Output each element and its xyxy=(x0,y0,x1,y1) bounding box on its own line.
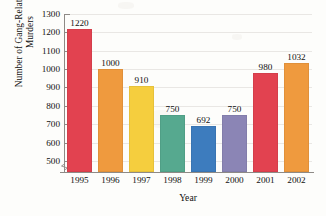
x-axis-tick-label-1999: 1999 xyxy=(187,175,221,185)
bar-value-label: 692 xyxy=(197,115,211,125)
bar-value-label: 980 xyxy=(259,62,273,72)
x-axis-tick-label-1998: 1998 xyxy=(156,175,190,185)
y-axis-tick-label: 1000 xyxy=(28,64,60,74)
y-axis-tick-label: 500 xyxy=(28,156,60,166)
bar-value-label: 1032 xyxy=(287,52,305,62)
x-axis-tick-label-1996: 1996 xyxy=(94,175,128,185)
y-axis-tick-label: 1100 xyxy=(28,46,60,56)
y-axis-tick-label: 600 xyxy=(28,138,60,148)
bar-2000[interactable] xyxy=(222,115,247,172)
x-axis-tick-label-2002: 2002 xyxy=(280,175,314,185)
y-axis-tick-label: 1300 xyxy=(28,9,60,19)
x-axis-line xyxy=(60,172,314,173)
bar-1998[interactable] xyxy=(160,115,185,172)
x-axis-title: Year xyxy=(64,192,312,203)
bar-group: 910 xyxy=(129,14,154,172)
bar-value-label: 1220 xyxy=(70,18,88,28)
bar-group: 1220 xyxy=(67,14,92,172)
bar-group: 750 xyxy=(222,14,247,172)
bar-group: 692 xyxy=(191,14,216,172)
bar-group: 750 xyxy=(160,14,185,172)
bar-2002[interactable] xyxy=(284,63,309,172)
bar-value-label: 750 xyxy=(166,104,180,114)
bar-value-label: 910 xyxy=(135,75,149,85)
bar-group: 1032 xyxy=(284,14,309,172)
x-axis-tick-label-2000: 2000 xyxy=(218,175,252,185)
bar-1999[interactable] xyxy=(191,126,216,172)
scan-artifact xyxy=(118,2,134,9)
x-axis-tick-label-1997: 1997 xyxy=(125,175,159,185)
y-axis-tick-label: 1200 xyxy=(28,27,60,37)
x-axis-tick-label-1995: 1995 xyxy=(63,175,97,185)
bar-group: 1000 xyxy=(98,14,123,172)
bar-chart: Number of Gang-Related Murders 500600700… xyxy=(0,0,326,216)
y-axis-tick-label: 800 xyxy=(28,101,60,111)
y-axis-tick-label: 900 xyxy=(28,82,60,92)
bar-value-label: 750 xyxy=(228,104,242,114)
bars-group: 122010009107506927509801032 xyxy=(64,14,312,172)
bar-1997[interactable] xyxy=(129,86,154,172)
bar-value-label: 1000 xyxy=(101,58,119,68)
y-axis-title-line-1: Number of Gang-Related xyxy=(14,0,24,87)
bar-1996[interactable] xyxy=(98,69,123,172)
y-axis-tick-label: 700 xyxy=(28,119,60,129)
bar-2001[interactable] xyxy=(253,73,278,172)
bar-group: 980 xyxy=(253,14,278,172)
x-axis-tick-label-2001: 2001 xyxy=(249,175,283,185)
bar-1995[interactable] xyxy=(67,29,92,172)
